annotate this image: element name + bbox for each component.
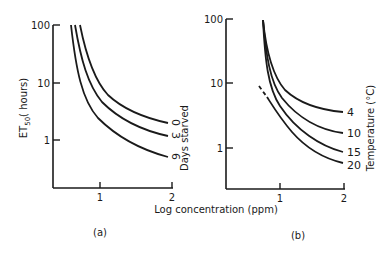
b-label-10: 10 [347, 127, 361, 140]
legend-temperature: Temperature (°C) [365, 85, 376, 172]
panel-a-label: (a) [93, 227, 107, 238]
a-ytick-1: 1 [44, 135, 50, 146]
b-ytick-10: 10 [210, 78, 223, 89]
b-curve-10 [263, 20, 343, 133]
b-xtick-1: 1 [277, 193, 283, 204]
a-curve-0 [80, 25, 168, 123]
y-axis-label: ET50( hours) [18, 78, 32, 139]
b-xtick-2: 2 [341, 193, 347, 204]
a-xtick-1: 1 [97, 192, 103, 203]
a-xtick-2: 2 [169, 192, 175, 203]
b-label-15: 15 [347, 146, 361, 159]
a-ytick-100: 100 [31, 20, 50, 31]
b-curve-20-dashed [259, 86, 267, 97]
a-curve-6 [71, 25, 168, 157]
b-ytick-1: 1 [217, 143, 223, 154]
figure: 100 10 1 1 2 ET50( hours) 0 3 6 Days sta… [0, 0, 386, 268]
b-label-4: 4 [347, 106, 354, 119]
panel-b-label: (b) [291, 230, 305, 241]
b-ytick-100: 100 [204, 14, 223, 25]
a-ytick-10: 10 [37, 78, 50, 89]
legend-days-starved: Days starved [179, 105, 190, 171]
x-axis-label: Log concentration (ppm) [154, 204, 278, 215]
b-label-20: 20 [347, 159, 361, 172]
